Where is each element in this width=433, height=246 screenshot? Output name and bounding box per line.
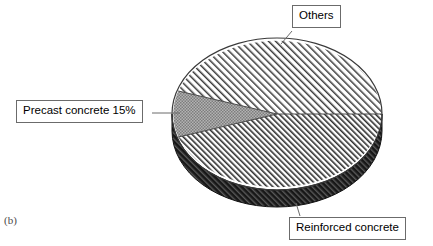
label-precast-concrete: Precast concrete 15%	[16, 100, 143, 123]
figure-panel-b: Others Precast concrete 15% Reinforced c…	[0, 0, 433, 246]
label-others: Others	[292, 5, 341, 28]
pie-chart-3d	[0, 0, 433, 246]
label-reinforced-concrete: Reinforced concrete	[289, 217, 406, 240]
panel-caption: (b)	[4, 214, 17, 226]
